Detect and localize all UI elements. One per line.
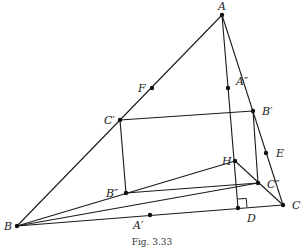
point-labels: ABCDEFHA′B′C′A″B″C″ xyxy=(3,0,301,233)
geometry-diagram: ABCDEFHA′B′C′A″B″C″ Fig. 3.33 xyxy=(0,0,304,248)
segment-Cp-Bpp xyxy=(120,120,126,193)
label-Bpp: B″ xyxy=(105,187,119,200)
label-Cpp: C″ xyxy=(267,178,280,191)
point-A xyxy=(220,13,224,17)
point-D xyxy=(236,206,240,210)
segment-A-D xyxy=(222,15,238,208)
points xyxy=(15,13,285,228)
label-App: A″ xyxy=(235,75,249,88)
label-B: B xyxy=(3,220,12,233)
point-Ap xyxy=(148,213,152,217)
label-H: H xyxy=(221,155,232,168)
label-C: C xyxy=(292,199,301,212)
segments xyxy=(17,15,283,226)
point-Cp xyxy=(118,118,122,122)
point-App xyxy=(226,86,230,90)
label-Bp: B′ xyxy=(261,105,273,118)
figure-caption: Fig. 3.33 xyxy=(132,237,173,247)
point-F xyxy=(150,86,154,90)
label-D: D xyxy=(246,212,256,225)
point-C xyxy=(281,203,285,207)
label-Ap: A′ xyxy=(132,219,144,232)
point-Cpp xyxy=(256,181,260,185)
point-Bpp xyxy=(124,191,128,195)
segment-Bp-Cpp xyxy=(253,111,258,183)
segment-Cp-Bp xyxy=(120,111,253,120)
label-A: A xyxy=(217,0,226,13)
point-B xyxy=(15,224,19,228)
label-Cp: C′ xyxy=(104,114,115,127)
point-H xyxy=(233,159,237,163)
point-E xyxy=(264,151,268,155)
label-E: E xyxy=(275,147,284,160)
point-Bp xyxy=(251,109,255,113)
label-F: F xyxy=(137,82,146,95)
